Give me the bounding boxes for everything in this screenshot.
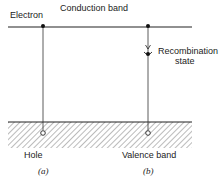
electron-label: Electron (10, 10, 43, 20)
recombination-state-label-2: state (175, 56, 195, 66)
valence-band-label: Valence band (122, 150, 176, 160)
valence-band-region (8, 122, 192, 148)
hole-circle-a (41, 131, 46, 136)
recombination-state-dot (146, 52, 150, 56)
recombination-state-label-1: Recombination (158, 46, 218, 56)
electron-dot-a (41, 24, 45, 28)
hole-circle-b (146, 131, 151, 136)
electron-dot-b (146, 24, 150, 28)
caption-a: (a) (38, 166, 49, 176)
hole-label: Hole (24, 150, 43, 160)
conduction-band-label: Conduction band (60, 3, 128, 13)
caption-b: (b) (143, 166, 154, 176)
